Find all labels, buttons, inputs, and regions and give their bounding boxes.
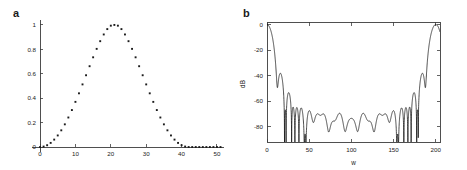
data-point [149,92,151,94]
panel-a-axes [32,20,224,152]
data-point [113,24,115,26]
data-point [170,135,172,137]
panel-b-y-axis-title: dB [239,80,246,88]
data-point [120,28,122,30]
data-point [174,139,176,141]
data-point [74,101,76,103]
x-tick-label: 0 [265,146,269,153]
plot-frame [267,22,440,142]
data-point [46,144,48,146]
panel-b-x-axis-title: w [350,159,356,166]
panel-b-frame [267,22,440,142]
data-point [117,25,119,27]
x-tick-label: 40 [178,150,185,157]
data-point [78,92,80,94]
data-point [131,48,133,50]
x-tick-label: 150 [388,146,399,153]
panel-a-data-points [39,24,221,148]
data-point [135,56,137,58]
y-tick-label: 0.4 [27,94,36,101]
y-tick-label: 0.6 [27,70,36,77]
data-point [195,146,197,148]
y-tick-label: 1 [33,21,37,28]
x-tick-label: 50 [306,146,313,153]
x-tick-label: 20 [107,150,114,157]
panel-label-b: b [243,8,250,19]
response-curve [267,25,440,142]
data-point [89,65,91,67]
data-point [212,146,214,148]
data-point [188,146,190,148]
data-point [82,83,84,85]
data-point [92,56,94,58]
data-point [96,48,98,50]
data-point [110,25,112,27]
y-tick-label: 0.2 [27,119,36,126]
data-point [57,135,59,137]
data-point [53,139,55,141]
panel-a-window-plot: a 0102030405000.20.40.60.81 [0,0,234,170]
y-tick-label: 0 [260,21,264,28]
data-point [163,123,165,125]
data-point [216,146,218,148]
data-point [166,129,168,131]
panel-b-curve [267,25,440,142]
data-point [106,28,108,30]
data-point [60,129,62,131]
data-point [50,142,52,144]
y-tick-label: 0.8 [27,46,36,53]
data-point [220,146,222,148]
data-point [205,146,207,148]
data-point [191,146,193,148]
data-point [67,117,69,119]
y-tick-label: -60 [254,97,264,104]
data-point [159,117,161,119]
x-tick-label: 100 [346,146,357,153]
panel-a-svg: 0102030405000.20.40.60.81 [0,0,234,170]
x-tick-label: 0 [38,150,42,157]
data-point [184,146,186,148]
y-tick-label: -20 [254,46,264,53]
panel-b-svg: 0501001502000-20-40-60-80 dB w [234,0,467,170]
data-point [152,101,154,103]
x-tick-label: 200 [431,146,442,153]
data-point [209,146,211,148]
panel-b-tick-labels: 0501001502000-20-40-60-80 [254,21,441,153]
data-point [43,146,45,148]
panel-b-response-plot: b 0501001502000-20-40-60-80 dB w [234,0,467,170]
x-tick-label: 30 [143,150,150,157]
figure-two-panel: a 0102030405000.20.40.60.81 b 0501001502… [0,0,467,170]
x-tick-label: 10 [72,150,79,157]
data-point [99,40,101,42]
data-point [124,34,126,36]
data-point [145,83,147,85]
data-point [128,40,130,42]
data-point [71,109,73,111]
y-tick-label: -40 [254,72,264,79]
y-tick-label: -80 [254,123,264,130]
data-point [85,74,87,76]
data-point [103,34,105,36]
data-point [202,146,204,148]
panel-label-a: a [13,8,19,19]
data-point [64,123,66,125]
data-point [142,74,144,76]
data-point [156,109,158,111]
panel-a-tick-labels: 0102030405000.20.40.60.81 [27,21,221,157]
x-tick-label: 50 [213,150,220,157]
data-point [177,142,179,144]
y-tick-label: 0 [33,143,37,150]
data-point [198,146,200,148]
data-point [181,144,183,146]
data-point [138,65,140,67]
data-point [39,146,41,148]
